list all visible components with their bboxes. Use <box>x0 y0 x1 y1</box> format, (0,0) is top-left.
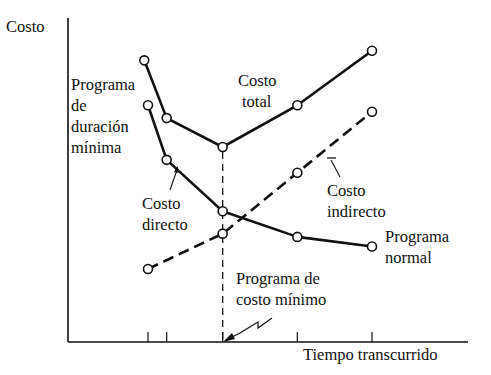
point-costo-total-3 <box>293 101 302 110</box>
point-costo-indirecto-3 <box>368 107 377 116</box>
point-costo-indirecto-0 <box>144 264 153 273</box>
point-costo-directo-1 <box>162 155 171 164</box>
annotation-programa-costo-minimo: Programa de costo mínimo <box>236 268 326 310</box>
point-costo-total-0 <box>140 56 149 65</box>
y-axis-label: Costo <box>6 16 45 37</box>
point-costo-total-4 <box>368 46 377 55</box>
point-costo-directo-0 <box>144 101 153 110</box>
annotation-costo-indirecto: Costo indirecto <box>327 180 386 222</box>
point-costo-indirecto-2 <box>293 168 302 177</box>
point-costo-total-1 <box>162 114 171 123</box>
point-costo-directo-4 <box>368 242 377 251</box>
chart-canvas <box>0 0 491 375</box>
point-costo-directo-2 <box>218 207 227 216</box>
point-costo-total-2 <box>218 143 227 152</box>
point-costo-directo-3 <box>293 232 302 241</box>
point-costo-indirecto-1 <box>218 229 227 238</box>
annotation-programa-normal: Programa normal <box>385 226 449 268</box>
costo-indirecto-leader <box>331 160 340 177</box>
costo-directo-leader <box>170 170 177 190</box>
annotation-programa-duracion-minima: Programa de duración mínima <box>71 74 135 158</box>
min-cost-arrowhead <box>223 333 235 342</box>
annotation-costo-directo: Costo directo <box>142 193 188 235</box>
x-axis-label: Tiempo transcurrido <box>303 344 438 365</box>
annotation-costo-total: Costo total <box>238 70 277 112</box>
